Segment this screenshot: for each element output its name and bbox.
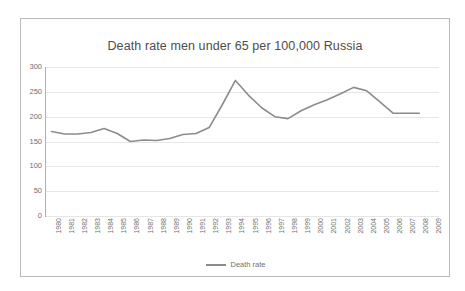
x-tick-label: 2008 (422, 218, 429, 234)
x-tick-label: 1981 (68, 218, 75, 234)
x-tick-label: 1997 (278, 218, 285, 234)
x-tick-label: 1985 (120, 218, 127, 234)
chart-card: Death rate men under 65 per 100,000 Russ… (20, 18, 450, 277)
x-tick-label: 1986 (133, 218, 140, 234)
x-tick-label: 1990 (186, 218, 193, 234)
y-axis-labels: 050100150200250300 (21, 19, 42, 278)
x-tick-label: 1984 (107, 218, 114, 234)
y-tick-label: 100 (29, 162, 42, 170)
x-tick-label: 2006 (396, 218, 403, 234)
y-tick-label: 200 (29, 113, 42, 121)
x-tick-label: 2003 (357, 218, 364, 234)
x-tick-label: 2001 (330, 218, 337, 234)
x-tick-label: 1980 (55, 218, 62, 234)
x-tick-label: 2005 (383, 218, 390, 234)
x-tick-label: 1998 (291, 218, 298, 234)
x-tick-label: 1983 (94, 218, 101, 234)
x-tick-label: 2000 (317, 218, 324, 234)
legend-label: Death rate (230, 260, 265, 269)
x-tick-label: 1987 (147, 218, 154, 234)
chart-legend: Death rate (21, 260, 451, 269)
legend-line-swatch (206, 264, 226, 266)
x-tick-label: 2009 (435, 218, 442, 234)
x-axis-labels: 1980198119821983198419851986198719881989… (45, 218, 439, 258)
x-tick-label: 1996 (265, 218, 272, 234)
x-tick-label: 1982 (81, 218, 88, 234)
y-tick-label: 300 (29, 63, 42, 71)
y-tick-label: 150 (29, 138, 42, 146)
x-tick-label: 2004 (370, 218, 377, 234)
x-tick-label: 1988 (160, 218, 167, 234)
x-tick-label: 1995 (252, 218, 259, 234)
x-tick-label: 2007 (409, 218, 416, 234)
x-tick-label: 2002 (344, 218, 351, 234)
y-tick-label: 50 (34, 187, 42, 195)
x-tick-label: 1994 (238, 218, 245, 234)
x-tick-label: 1991 (199, 218, 206, 234)
y-tick-label: 0 (38, 212, 42, 220)
plot-container: 050100150200250300 198019811982198319841… (21, 19, 451, 278)
x-tick-label: 1989 (173, 218, 180, 234)
x-tick-label: 1999 (304, 218, 311, 234)
series-plot (45, 67, 439, 217)
x-tick-label: 1993 (225, 218, 232, 234)
x-tick-label: 1992 (212, 218, 219, 234)
death-rate-line (52, 80, 420, 141)
y-tick-label: 250 (29, 88, 42, 96)
